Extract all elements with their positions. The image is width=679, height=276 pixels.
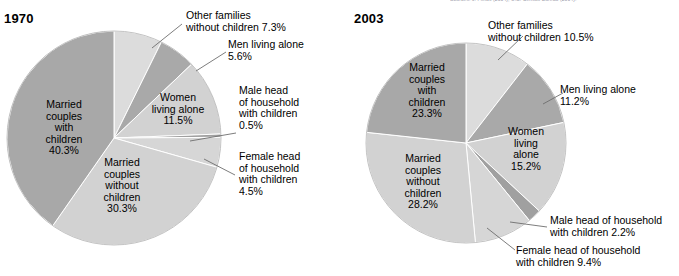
label-line: Married xyxy=(388,62,466,74)
label-line: 15.2% xyxy=(496,161,556,173)
slice-label-women-living-alone-2003: Womenlivingalone15.2% xyxy=(496,126,556,172)
label-line: with children 9.4% xyxy=(516,257,679,269)
callout-label-female-head-of-household-with-children-2003: Female head of householdwith children 9.… xyxy=(516,245,679,268)
label-line: 11.2% xyxy=(560,96,678,108)
label-line: 23.3% xyxy=(388,108,466,120)
label-line: without children 10.5% xyxy=(488,32,648,44)
figure-canvas: Sources: J. Fields (2004), U.S. Census B… xyxy=(0,0,679,276)
label-line: Women xyxy=(496,126,556,138)
callout-label-other-families-without-children-2003: Other familieswithout children 10.5% xyxy=(488,20,648,43)
label-line: Other families xyxy=(488,20,648,32)
label-line: 28.2% xyxy=(384,199,462,211)
callout-label-male-head-of-household-with-children-2003: Male head of householdwith children 2.2% xyxy=(550,215,679,238)
label-line: with children 2.2% xyxy=(550,227,679,239)
label-line: Married xyxy=(384,153,462,165)
slice-label-married-couples-with-children-2003: Marriedcoupleswithchildren23.3% xyxy=(388,62,466,120)
callout-label-men-living-alone-2003: Men living alone11.2% xyxy=(560,84,678,107)
label-line: Male head of household xyxy=(550,215,679,227)
label-line: Men living alone xyxy=(560,84,678,96)
slice-label-married-couples-without-children-2003: Marriedcoupleswithoutchildren28.2% xyxy=(384,153,462,211)
label-line: Female head of household xyxy=(516,245,679,257)
